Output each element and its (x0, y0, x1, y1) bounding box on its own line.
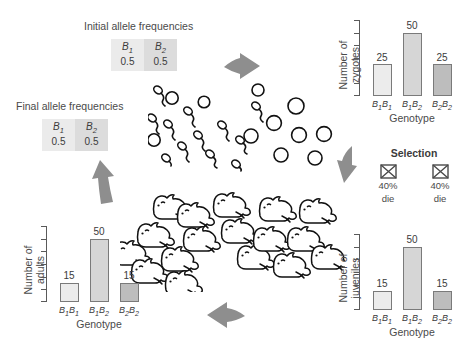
chart-juveniles-bars: 15 50 15 (367, 234, 457, 310)
final-allele-b2-value: 0.5 (75, 136, 108, 148)
bar-b1b2 (403, 33, 422, 96)
chart-zygotes-plot: 25 50 25 (359, 20, 457, 96)
chart-zygotes-yaxis (359, 20, 360, 96)
chart-adults-bars: 15 50 15 (54, 226, 144, 302)
xlabel-b2b2: B2B2 (427, 313, 457, 325)
sperm-icon (152, 85, 165, 106)
arrow-up-to-final-frequencies (86, 158, 120, 208)
sperm-icon (234, 135, 247, 154)
bar-value-label: 15 (436, 278, 447, 289)
bar-group: 15 (427, 291, 457, 310)
chart-adults: Number of adults 15 50 15 B1B1 (8, 218, 146, 340)
xlabel-b1b2: B1B2 (397, 99, 427, 111)
bar-group: 15 (367, 291, 397, 310)
bar-b2b2 (433, 64, 452, 96)
final-allele-b1-value: 0.5 (42, 136, 75, 148)
y-tick (354, 285, 359, 286)
y-tick (354, 45, 359, 46)
chart-juveniles-plot: 15 50 15 (359, 234, 457, 310)
egg-icon (274, 148, 288, 162)
y-tick (354, 95, 359, 96)
xlabel-b1b2: B1B2 (397, 313, 427, 325)
y-tick (354, 71, 359, 72)
y-tick (41, 264, 46, 265)
final-allele-b2-label: B2 (75, 121, 108, 136)
sperm-icon (192, 130, 205, 151)
sperm-icon (176, 141, 189, 162)
xlabel-b2b2: B2B2 (427, 99, 457, 111)
bar-b1b1 (373, 64, 392, 96)
final-allele-frequencies: Final allele frequencies B1 0.5 B2 0.5 (16, 100, 123, 151)
xlabel-b1b2: B1B2 (84, 305, 114, 317)
chart-adults-ylabel: Number of adults (22, 228, 46, 312)
y-tick (354, 297, 359, 298)
initial-allele-b2-cell: B2 0.5 (144, 39, 177, 71)
crossed-box-icon (432, 164, 449, 179)
arrow-left-to-adults (205, 300, 247, 334)
egg-icon (148, 134, 160, 146)
egg-icon (166, 92, 178, 104)
selection-word-1: die (366, 193, 410, 205)
bar-value-label: 25 (436, 52, 447, 63)
y-tick (41, 251, 46, 252)
bar-group: 15 (54, 283, 84, 302)
initial-allele-b1-label: B1 (111, 41, 144, 56)
mouse-icon (260, 197, 297, 222)
bar-value-label: 50 (93, 226, 104, 237)
sperm-icon (182, 106, 195, 127)
mouse-icon (300, 199, 337, 224)
chart-zygotes: Number of zygotes 25 50 25 B1B (323, 14, 461, 126)
bar-group: 15 (114, 283, 144, 302)
chart-zygotes-xtitle: Genotype (367, 112, 457, 124)
sperm-icon (250, 101, 263, 122)
bar-b1b1 (60, 283, 79, 302)
chart-juveniles-xlabels: B1B1 B1B2 B2B2 (367, 313, 457, 325)
bar-b1b1 (373, 291, 392, 310)
selection-item-homozygote-1: 40% die (366, 164, 410, 204)
mice-svg (120, 182, 345, 292)
bar-b2b2 (433, 291, 452, 310)
mouse-icon (184, 227, 221, 252)
initial-frequencies-title: Initial allele frequencies (84, 20, 193, 32)
initial-allele-b1-value: 0.5 (111, 56, 144, 68)
selection-block: Selection 40% die 40% die (366, 147, 462, 207)
chart-juveniles-xtitle: Genotype (367, 326, 457, 338)
egg-icon (244, 129, 258, 143)
mouse-icon (274, 253, 311, 278)
y-tick (41, 239, 46, 240)
initial-allele-b1-cell: B1 0.5 (111, 39, 144, 71)
selection-percent-1: 40% (366, 180, 410, 192)
final-frequencies-values: B1 0.5 B2 0.5 (42, 119, 123, 151)
initial-allele-b2-value: 0.5 (144, 56, 177, 68)
egg-icon (198, 96, 210, 108)
gamete-field (148, 78, 333, 173)
y-tick (354, 33, 359, 34)
xlabel-b1b1: B1B1 (367, 99, 397, 111)
y-tick (41, 277, 46, 278)
bar-value-label: 15 (376, 278, 387, 289)
mouse-icon (214, 193, 251, 218)
bar-value-label: 15 (63, 270, 74, 281)
mouse-icon (222, 219, 259, 244)
mouse-icon (178, 203, 215, 228)
final-allele-b1-label: B1 (42, 121, 75, 136)
gametes-svg (148, 78, 333, 173)
sperm-icon (230, 159, 241, 171)
arrow-right-to-zygotes (222, 52, 262, 86)
xlabel-b1b1: B1B1 (54, 305, 84, 317)
bar-b1b2 (403, 247, 422, 310)
y-tick (41, 289, 46, 290)
bar-value-label: 50 (406, 234, 417, 245)
egg-icon (292, 128, 307, 143)
xlabel-b1b1: B1B1 (367, 313, 397, 325)
chart-zygotes-xlabels: B1B1 B1B2 B2B2 (367, 99, 457, 111)
bar-group: 50 (397, 247, 427, 310)
y-tick (354, 83, 359, 84)
y-tick (354, 259, 359, 260)
y-tick (354, 58, 359, 59)
bar-value-label: 25 (376, 52, 387, 63)
bar-value-label: 50 (406, 20, 417, 31)
y-tick (354, 234, 359, 235)
mouse-icon (254, 227, 291, 252)
y-tick (354, 309, 359, 310)
